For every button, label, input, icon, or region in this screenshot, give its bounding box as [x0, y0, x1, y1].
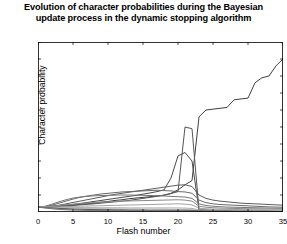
tick-marks	[38, 42, 283, 212]
x-tick-label: 0	[26, 217, 50, 226]
chart-title: Evolution of character probabilities dur…	[8, 2, 279, 24]
x-tick-label: 35	[271, 217, 287, 226]
axis-frame	[39, 43, 283, 212]
matlab-figure: Evolution of character probabilities dur…	[0, 0, 287, 244]
x-tick-label: 5	[61, 217, 85, 226]
x-tick-label: 25	[201, 217, 225, 226]
plot-area: 00.10.20.30.40.50.60.70.80.91 0510152025…	[38, 42, 283, 212]
y-axis-label: Character probability	[37, 35, 47, 175]
series-line	[38, 59, 283, 207]
chart-title-line-1: Evolution of character probabilities dur…	[8, 2, 279, 13]
x-axis-label: Flash number	[0, 226, 287, 236]
plot-canvas	[38, 42, 283, 212]
series-group	[38, 59, 283, 212]
x-tick-label: 15	[131, 217, 155, 226]
chart-title-line-2: update process in the dynamic stopping a…	[8, 13, 279, 24]
x-tick-label: 20	[166, 217, 190, 226]
x-tick-label: 10	[96, 217, 120, 226]
x-tick-label: 30	[236, 217, 260, 226]
